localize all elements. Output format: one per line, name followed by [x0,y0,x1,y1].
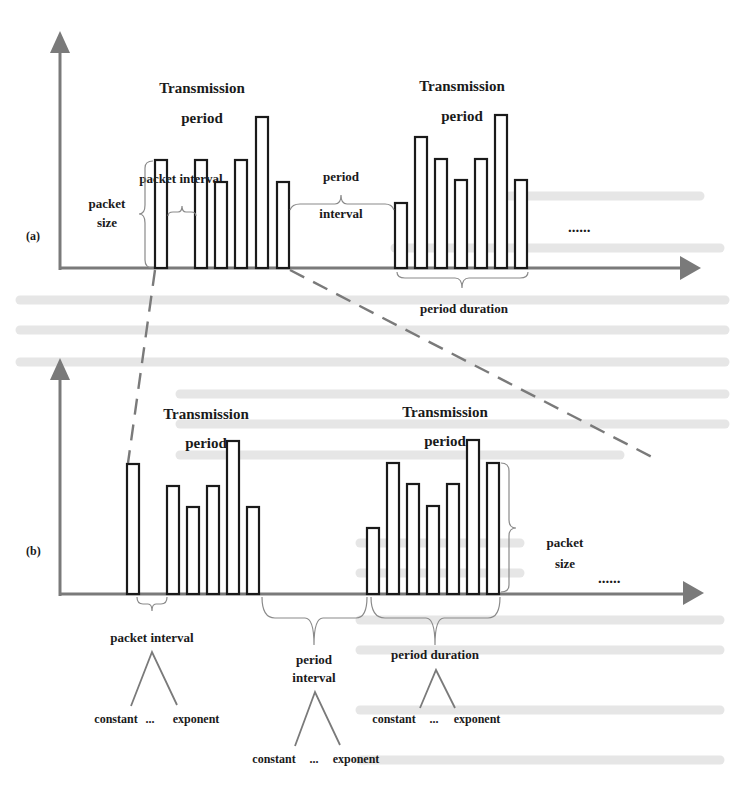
packet-bar [467,440,479,594]
packet-bar [487,463,499,594]
packet-bar [447,484,459,594]
distribution-tree-period-interval [295,692,340,746]
packet-bar [235,160,247,268]
period-title-a1-line1: Transmission [159,80,245,96]
panel-label-b: (b) [26,544,41,558]
packet-bar [407,484,419,594]
continuation-dots-b: ...... [598,570,621,586]
packet-bar [127,464,139,594]
panel-a: (a) Transmission period Transmission per… [26,31,701,316]
packet-bar [277,182,289,268]
period-title-b2-line2: period [424,433,466,449]
packet-bar [167,486,179,594]
period-title-b1-line1: Transmission [163,406,249,422]
packet-size-label-a-line2: size [97,215,117,230]
packet-interval-label-b: packet interval [110,630,194,645]
period-interval-label-b-line1: period [296,652,333,667]
packet-bar [415,137,427,268]
period-interval-label-b-line2: interval [292,670,336,685]
dist-ellipsis-3: ... [430,712,439,726]
packet-size-label-b-line2: size [555,556,575,571]
packet-interval-brace-b [137,597,167,611]
dist-ellipsis-2: ... [310,752,319,766]
packet-bar [427,506,439,594]
period-title-b2-line1: Transmission [402,404,488,420]
packet-bar [395,203,407,268]
panel-label-a: (a) [26,229,40,243]
packet-bar [387,463,399,594]
dist-constant-2: constant [252,752,295,766]
period-interval-label-a-line2: interval [319,206,363,221]
packet-size-label-a-line1: packet [89,196,127,211]
period-title-b1-line2: period [185,435,227,451]
period-interval-label-a-line1: period [323,169,360,184]
period-title-a2-line1: Transmission [419,78,505,94]
traffic-model-diagram: (a) Transmission period Transmission per… [0,0,733,796]
packet-bar [475,159,487,268]
packet-bar [207,486,219,594]
packet-interval-label-a: packet interval [139,171,223,186]
period-duration-label-a: period duration [420,301,509,316]
period-title-a2-line2: period [441,108,483,124]
dist-exponent-2: exponent [333,752,380,766]
packet-bar [367,528,379,594]
dist-exponent-3: exponent [454,712,501,726]
packet-bar [515,180,527,268]
packet-bar [215,182,227,268]
dist-exponent-1: exponent [173,712,220,726]
continuation-dots-a: ...... [568,219,591,235]
packet-interval-brace-a [168,206,196,216]
packet-bar [247,507,259,594]
packet-bar [435,159,447,268]
scan-show-through [20,196,725,760]
dist-constant-3: constant [372,712,415,726]
x-arrow-icon [680,256,701,280]
packet-size-label-b-line1: packet [547,535,585,550]
dist-constant-1: constant [94,712,137,726]
period-duration-label-b: period duration [391,647,480,662]
packet-bar [455,180,467,268]
period-duration-brace-a [397,272,528,288]
period-title-a1-line2: period [181,110,223,126]
distribution-tree-period-duration [420,670,455,708]
panel-b: (b) Transmission period Transmission per… [26,358,704,766]
distribution-tree-packet-interval [131,652,177,706]
packet-bar [227,441,239,594]
y-arrow-icon [50,31,70,53]
dist-ellipsis-1: ... [146,712,155,726]
period-interval-brace-b [262,597,367,645]
packet-bar [495,115,507,268]
x-arrow-icon [683,581,704,605]
packet-bar [187,507,199,594]
packet-bar [256,117,268,268]
